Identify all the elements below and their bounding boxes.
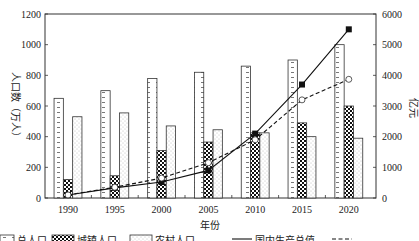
legend-item-4: 国内生产总值 [232, 234, 315, 241]
bar-total [241, 66, 250, 198]
y2-tick-label: 6000 [382, 9, 402, 20]
legend-label: 农村人口 [155, 234, 195, 241]
x-tick-label: 2020 [339, 204, 359, 215]
legend-swatch [52, 235, 74, 241]
y-tick-label: 200 [26, 162, 41, 173]
y2-tick-label: 3000 [382, 101, 402, 112]
bar-total [335, 45, 344, 198]
x-tick-label: 2005 [198, 204, 218, 215]
y2-tick-label: 2000 [382, 131, 402, 142]
y-axis-title: 人口数（万人） [10, 72, 22, 142]
bar-rural [353, 138, 362, 198]
y-tick-label: 400 [26, 131, 41, 142]
x-tick-label: 2010 [245, 204, 265, 215]
legend: 总人口城镇人口农村人口国内生产总值 [0, 234, 352, 241]
y2-tick-label: 4000 [382, 70, 402, 81]
bar-rural [166, 126, 175, 198]
bar-urban [297, 123, 306, 198]
legend-label: 城镇人口 [77, 234, 117, 241]
y-tick-label: 1200 [21, 9, 41, 20]
bar-rural [213, 130, 222, 198]
bar-rural [260, 133, 269, 198]
y-tick-label: 600 [26, 101, 41, 112]
circle-marker [205, 160, 211, 166]
y2-axis-title: 亿元 [408, 98, 419, 118]
bar-total [54, 98, 63, 198]
x-tick-label: 2015 [292, 204, 312, 215]
x-tick-label: 2000 [152, 204, 172, 215]
square-marker [205, 167, 211, 173]
square-marker [299, 82, 305, 88]
bar-urban [344, 106, 353, 198]
bar-total [288, 60, 297, 198]
y-tick-label: 0 [36, 193, 41, 204]
y2-tick-label: 0 [382, 193, 387, 204]
circle-marker [299, 97, 305, 103]
y-tick-label: 800 [26, 70, 41, 81]
circle-marker [159, 175, 165, 181]
plot-area: 0200400600800100012000100020003000400050… [21, 9, 402, 216]
circle-marker [252, 137, 258, 143]
square-marker [252, 131, 258, 137]
circle-marker [346, 76, 352, 82]
circle-marker [65, 192, 71, 198]
legend-swatch [130, 235, 152, 241]
x-tick-label: 1990 [58, 204, 78, 215]
legend-label: 国内生产总值 [255, 234, 315, 241]
legend-swatch [0, 235, 14, 241]
bar-total [101, 91, 110, 198]
bar-rural [73, 117, 82, 198]
circle-marker [112, 184, 118, 190]
legend-item-3: 农村人口 [130, 234, 195, 241]
x-axis-title: 年份 [200, 219, 220, 231]
y-tick-label: 1000 [21, 39, 41, 50]
bar-total [194, 72, 203, 198]
square-marker [346, 26, 352, 32]
legend-label: 总人口 [17, 234, 47, 241]
y2-tick-label: 1000 [382, 162, 402, 173]
legend-item-2: 城镇人口 [52, 234, 117, 241]
bar-urban [157, 150, 166, 198]
legend-item-1: 总人口 [0, 234, 47, 241]
x-tick-label: 1995 [105, 204, 125, 215]
chart: 0200400600800100012000100020003000400050… [0, 0, 419, 241]
y2-tick-label: 5000 [382, 39, 402, 50]
bar-rural [307, 137, 316, 198]
